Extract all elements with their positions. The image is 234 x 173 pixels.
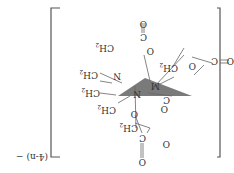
atom-o-carbonyl-3: O: [140, 19, 147, 29]
atom-c4: C: [163, 95, 170, 105]
right-bracket: [51, 8, 60, 157]
atom-n2: N: [113, 71, 121, 81]
atom-n1: N: [133, 89, 141, 99]
atom-ch2-a: CH2: [119, 122, 138, 133]
atom-ch2-c: CH2: [79, 69, 98, 80]
atom-c3: C: [140, 32, 147, 42]
atom-o-carbonyl-4: O: [163, 139, 170, 149]
left-bracket: [217, 8, 220, 157]
atom-c1: C: [139, 133, 146, 143]
atom-m: M: [151, 81, 160, 91]
structure-svg: (4-n) −: [0, 0, 234, 173]
atom-o-lig-3: O: [189, 61, 196, 71]
edta-complex-diagram: (4-n) −: [0, 0, 234, 173]
atom-o-carbonyl-2: O: [227, 56, 234, 66]
atom-ch2-b: CH2: [81, 87, 100, 98]
atom-o-lig-1: O: [131, 109, 138, 119]
atom-ch2-f: CH2: [95, 42, 114, 53]
atom-ch2-d: CH2: [159, 62, 178, 73]
atom-o-carbonyl-1: O: [139, 157, 146, 167]
charge-label: (4-n) −: [16, 152, 48, 162]
atom-ch2-e: CH2: [97, 104, 116, 115]
atom-c2: C: [211, 56, 218, 66]
atom-o-lig-4: O: [147, 46, 154, 56]
